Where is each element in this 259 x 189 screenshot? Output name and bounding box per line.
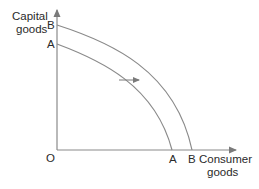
ppf-diagram: Capital goods B A O A B Consumer goods — [0, 0, 259, 189]
y-axis-label-line2: goods — [16, 23, 48, 35]
x-intercept-b-label: B — [188, 153, 196, 165]
x-intercept-a-label: A — [169, 153, 177, 165]
ppf-curve-b — [57, 25, 192, 150]
origin-label: O — [46, 152, 55, 164]
x-axis-label-line2: goods — [207, 166, 239, 178]
y-axis-label-line1: Capital — [12, 10, 48, 22]
ppf-curve-a — [57, 44, 172, 150]
y-intercept-b-label: B — [47, 19, 55, 31]
y-intercept-a-label: A — [47, 38, 55, 50]
x-axis-label-line1: Consumer — [199, 153, 252, 165]
